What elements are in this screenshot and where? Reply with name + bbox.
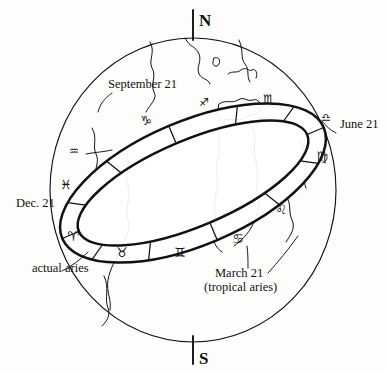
label-dec-21: Dec. 21 [16, 196, 55, 210]
coastline-greenland [185, 38, 210, 84]
zodiac-glyph-taurus: ♉ [116, 245, 128, 260]
zodiac-glyph-leo: ♌ [275, 202, 287, 217]
zodiac-glyph-scorpio: ♏ [263, 92, 275, 107]
diagram-canvas: ♈ ♉ ♊ ♋ ♌ ♍ ♎ ♏ ♐ ♑ ♒ ♓ N S September 21… [0, 0, 386, 374]
zodiac-glyph-cancer: ♋ [232, 231, 244, 246]
coastline-scandinavia [239, 40, 250, 82]
label-june-21: June 21 [340, 117, 379, 131]
zodiac-glyph-pisces: ♓ [60, 177, 72, 192]
coastline-indian-ocean [286, 196, 293, 242]
zodiac-glyph-gemini: ♊ [174, 245, 186, 260]
leader-line-march-tick [247, 246, 248, 268]
zodiac-glyph-sagittarius: ♐ [199, 96, 209, 109]
label-march-21: March 21 [215, 266, 263, 280]
label-september-21: September 21 [108, 77, 177, 91]
label-tropical-aries: (tropical aries) [204, 280, 277, 294]
zodiac-glyph-aries: ♈ [67, 229, 79, 244]
leader-line-aquarius [86, 150, 112, 154]
leader-line-september [98, 93, 112, 112]
south-pole-label: S [199, 349, 208, 368]
leader-line-march [268, 236, 298, 273]
zodiac-globe-diagram: ♈ ♉ ♊ ♋ ♌ ♍ ♎ ♏ ♐ ♑ ♒ ♓ N S September 21… [0, 0, 386, 374]
north-pole-label: N [199, 11, 212, 30]
coastline-iceland [213, 57, 220, 66]
coastline-northern-europe [228, 69, 257, 78]
label-actual-aries: actual aries [32, 261, 89, 275]
zodiac-glyph-aquarius: ♒ [69, 145, 79, 158]
zodiac-glyph-virgo: ♍ [316, 149, 328, 164]
zodiac-glyph-capricorn: ♑ [140, 113, 152, 128]
